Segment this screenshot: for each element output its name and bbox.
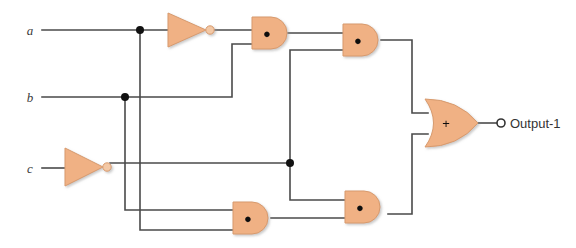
and-gate-3[interactable]: ●	[233, 202, 268, 234]
and-gate-2-symbol: ●	[354, 33, 362, 48]
and-gate-4-symbol: ●	[356, 200, 364, 215]
not-gate-a-bubble	[206, 26, 214, 34]
and-gate-1-symbol: ●	[263, 26, 271, 41]
junction-dot-notc	[286, 159, 294, 167]
or-gate-1-symbol: +	[442, 116, 450, 131]
junction-dot-a	[136, 26, 144, 34]
output-label: Output-1	[510, 116, 561, 131]
and-gate-3-symbol: ●	[244, 211, 252, 226]
input-label-a: a	[27, 23, 34, 38]
input-label-b: b	[27, 90, 34, 105]
and-gate-1[interactable]: ●	[252, 17, 287, 49]
diagram-background	[0, 0, 576, 248]
input-label-c: c	[27, 161, 33, 176]
and-gate-2[interactable]: ●	[343, 24, 378, 56]
junction-dot-b	[121, 93, 129, 101]
logic-circuit-diagram: ● ● ● ● + a b c Output-1	[0, 0, 576, 248]
not-gate-c-bubble	[103, 163, 111, 171]
output-terminal-icon[interactable]	[497, 119, 505, 127]
and-gate-4[interactable]: ●	[345, 191, 380, 223]
circuit-canvas: ● ● ● ● + a b c Output-1	[0, 0, 576, 248]
